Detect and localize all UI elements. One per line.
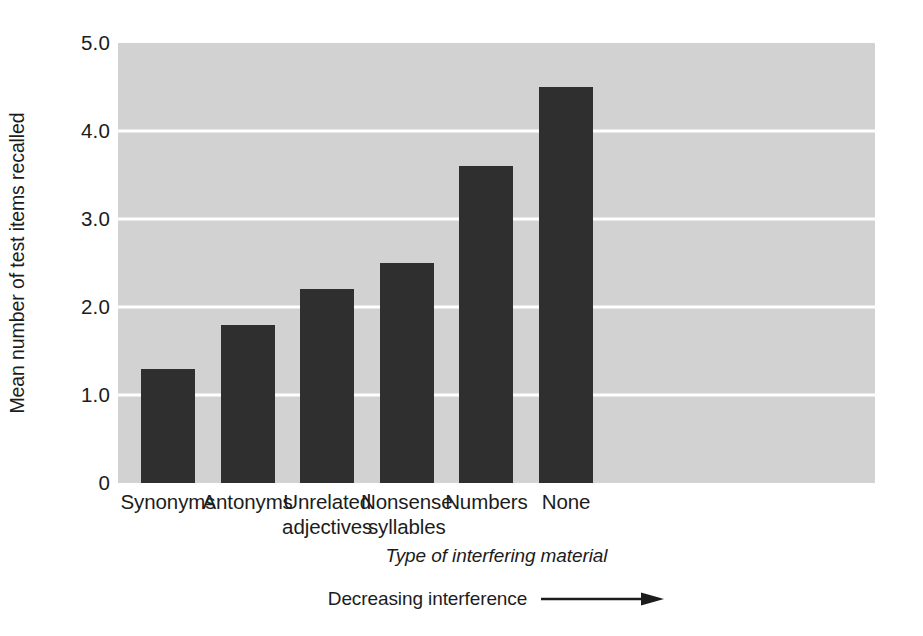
y-axis-tick-label: 5.0 <box>81 31 110 55</box>
x-axis-tick-labels: SynonymsAntonymsUnrelatedadjectivesNonse… <box>118 489 875 545</box>
annotation-label: Decreasing interference <box>328 588 527 610</box>
x-axis-tick-label: None <box>501 489 631 514</box>
y-axis-title: Mean number of test items recalled <box>0 43 34 483</box>
y-axis-tick-label: 4.0 <box>81 119 110 143</box>
bar <box>459 166 513 483</box>
bar-chart-figure: Mean number of test items recalled 5.04.… <box>0 0 923 636</box>
x-axis-title: Type of interfering material <box>118 545 875 567</box>
y-axis-tick-labels: 5.04.03.02.01.00 <box>38 43 110 483</box>
y-axis-tick-label: 3.0 <box>81 207 110 231</box>
bar <box>300 289 354 483</box>
x-axis-tick-label-line1: None <box>542 490 591 513</box>
bar <box>539 87 593 483</box>
bar <box>380 263 434 483</box>
interference-direction-annotation: Decreasing interference <box>118 588 875 610</box>
y-axis-tick-label: 2.0 <box>81 295 110 319</box>
bars-group <box>118 43 875 483</box>
y-axis-tick-label: 1.0 <box>81 383 110 407</box>
plot-area <box>118 43 875 483</box>
right-arrow-icon <box>541 591 665 607</box>
bar <box>141 369 195 483</box>
x-axis-tick-label-line2: syllables <box>342 514 472 539</box>
bar <box>221 325 275 483</box>
